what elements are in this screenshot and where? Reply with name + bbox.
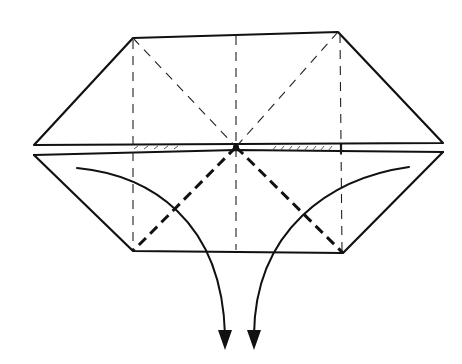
crease-lower-left-diagonal [133, 147, 236, 251]
origami-diagram [0, 0, 462, 364]
upper-flap-outline [34, 32, 443, 145]
crease-upper-left-diagonal [133, 38, 236, 147]
left-arrowhead-icon [218, 330, 232, 350]
crease-lower-right-diagonal [236, 147, 343, 253]
diagram-canvas [0, 0, 462, 364]
right-arrowhead-icon [247, 330, 261, 350]
right-fold-arrow [254, 167, 409, 335]
crease-upper-right-diagonal [236, 32, 338, 147]
lower-flap-outline [34, 152, 443, 253]
center-point [233, 144, 239, 150]
